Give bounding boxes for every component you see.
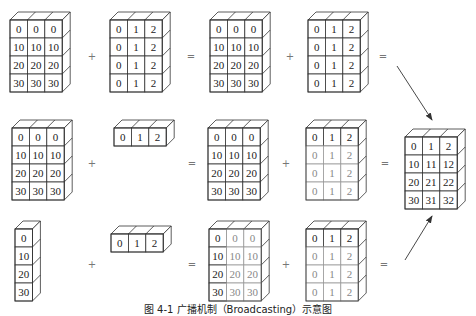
matrix-cell: 10 xyxy=(244,247,261,265)
row-2-b-broadcast: 012012012012 xyxy=(306,120,366,200)
svg-text:30: 30 xyxy=(213,77,225,89)
matrix-cell: 20 xyxy=(15,265,32,283)
matrix-cell: 1 xyxy=(127,20,144,38)
matrix-cell: 20 xyxy=(45,56,62,74)
svg-text:0: 0 xyxy=(35,131,41,143)
svg-text:10: 10 xyxy=(48,41,60,53)
matrix-cell: 2 xyxy=(341,182,358,200)
svg-text:0: 0 xyxy=(232,232,238,244)
matrix-cell: 2 xyxy=(343,74,360,92)
svg-text:0: 0 xyxy=(312,232,318,244)
matrix-cell: 0 xyxy=(29,128,46,146)
matrix-cell: 30 xyxy=(208,182,225,200)
matrix-cell: 0 xyxy=(27,20,44,38)
matrix-cell: 30 xyxy=(245,74,262,92)
svg-text:2: 2 xyxy=(349,41,355,53)
svg-text:30: 30 xyxy=(18,286,30,298)
row-3-a-broadcast: 000101010202020303030 xyxy=(209,221,269,301)
svg-text:20: 20 xyxy=(213,59,225,71)
matrix-cell: 2 xyxy=(343,56,360,74)
svg-text:2: 2 xyxy=(155,131,161,143)
matrix-cell: 11 xyxy=(422,155,439,173)
row-1-a-result: 000101010202020303030 xyxy=(210,12,270,92)
equals-operator: = xyxy=(187,51,195,62)
svg-text:1: 1 xyxy=(331,23,337,35)
svg-text:0: 0 xyxy=(215,232,221,244)
svg-text:0: 0 xyxy=(51,23,57,35)
matrix-cell: 1 xyxy=(323,182,340,200)
svg-text:10: 10 xyxy=(230,250,242,262)
matrix-cell: 2 xyxy=(341,146,358,164)
svg-text:0: 0 xyxy=(314,23,320,35)
svg-text:1: 1 xyxy=(329,286,335,298)
matrix-cell: 20 xyxy=(209,265,226,283)
svg-text:20: 20 xyxy=(230,268,242,280)
svg-text:0: 0 xyxy=(231,131,237,143)
svg-text:2: 2 xyxy=(151,23,157,35)
matrix-cell: 10 xyxy=(209,247,226,265)
svg-text:0: 0 xyxy=(314,59,320,71)
matrix-cell: 20 xyxy=(245,56,262,74)
svg-text:2: 2 xyxy=(347,286,353,298)
svg-text:0: 0 xyxy=(411,140,417,152)
svg-text:0: 0 xyxy=(116,77,122,89)
matrix-cell: 1 xyxy=(127,56,144,74)
svg-text:10: 10 xyxy=(31,41,43,53)
svg-text:0: 0 xyxy=(120,131,126,143)
svg-text:30: 30 xyxy=(33,185,45,197)
matrix-cell: 0 xyxy=(308,20,325,38)
matrix-cell: 22 xyxy=(440,173,457,191)
matrix-cell: 0 xyxy=(210,20,227,38)
matrix-cell: 10 xyxy=(27,38,44,56)
svg-text:20: 20 xyxy=(247,268,259,280)
svg-text:1: 1 xyxy=(329,149,335,161)
svg-text:0: 0 xyxy=(233,23,239,35)
arrow-from-row-1-icon xyxy=(397,66,432,120)
svg-text:0: 0 xyxy=(312,268,318,280)
svg-text:0: 0 xyxy=(312,250,318,262)
matrix-cell: 30 xyxy=(209,283,226,301)
matrix-cell: 0 xyxy=(306,146,323,164)
matrix-cell: 20 xyxy=(47,164,64,182)
matrix-cell: 10 xyxy=(47,146,64,164)
row-1-b-matrix: 012012012012 xyxy=(110,12,170,92)
matrix-cell: 30 xyxy=(15,283,32,301)
svg-text:2: 2 xyxy=(347,131,353,143)
svg-text:30: 30 xyxy=(246,185,258,197)
svg-text:20: 20 xyxy=(48,59,60,71)
svg-text:20: 20 xyxy=(33,167,45,179)
equals-operator: = xyxy=(380,259,388,270)
matrix-cell: 1 xyxy=(127,74,144,92)
svg-text:2: 2 xyxy=(347,185,353,197)
matrix-cell: 1 xyxy=(131,128,148,146)
matrix-cell: 10 xyxy=(210,38,227,56)
svg-text:2: 2 xyxy=(347,250,353,262)
matrix-cell: 0 xyxy=(110,38,127,56)
svg-text:10: 10 xyxy=(248,41,260,53)
matrix-cell: 2 xyxy=(341,247,358,265)
svg-text:22: 22 xyxy=(443,176,454,188)
matrix-cell: 20 xyxy=(227,56,244,74)
matrix-cell: 20 xyxy=(12,164,29,182)
matrix-cell: 1 xyxy=(323,146,340,164)
svg-text:1: 1 xyxy=(133,41,139,53)
equals-operator: = xyxy=(188,259,196,270)
matrix-cell: 30 xyxy=(12,182,29,200)
svg-text:20: 20 xyxy=(18,268,30,280)
matrix-cell: 20 xyxy=(10,56,27,74)
matrix-cell: 10 xyxy=(208,146,225,164)
svg-text:1: 1 xyxy=(134,237,140,249)
matrix-cell: 1 xyxy=(323,247,340,265)
svg-text:30: 30 xyxy=(229,185,241,197)
arrow-from-row-3-icon xyxy=(405,216,432,260)
svg-text:2: 2 xyxy=(446,140,452,152)
svg-text:0: 0 xyxy=(251,23,257,35)
svg-text:2: 2 xyxy=(349,59,355,71)
matrix-cell: 0 xyxy=(306,229,323,247)
matrix-cell: 0 xyxy=(405,137,422,155)
matrix-cell: 20 xyxy=(210,56,227,74)
svg-text:0: 0 xyxy=(18,131,24,143)
matrix-cell: 21 xyxy=(422,173,439,191)
svg-text:1: 1 xyxy=(331,41,337,53)
